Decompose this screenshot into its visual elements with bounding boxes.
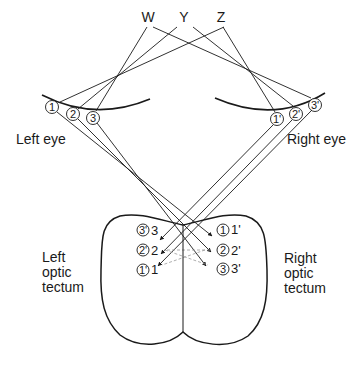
right-mark-3-num: 3' [231,261,241,276]
object-points: W Y Z [141,9,225,25]
right-mark-3-circle: 3 [220,263,226,275]
left-mark-2-num: 2 [151,243,158,258]
right-eye-receptors: 1' 2' 3' [271,99,322,126]
right-mark-2-num: 2' [231,243,241,258]
receptor-3p-label: 3' [311,99,319,111]
right-eye-label: Right eye [287,131,346,147]
rays-to-right-eye [153,27,311,112]
optic-tectum-outline [101,215,267,344]
receptor-2-label: 2 [70,108,76,120]
right-tectum-marks: 1 1' 2 2' 3 3' [217,222,241,276]
receptor-1-label: 1 [49,101,55,113]
binocular-projection-diagram: W Y Z 1 2 3 1' 2' 3' [0,0,361,366]
left-eye-fibers [57,112,212,266]
left-eye-label: Left eye [16,131,66,147]
left-tectum-label-line3: tectum [42,279,84,295]
right-tectum-label: Right optic tectum [284,250,326,296]
left-mark-2-circle: 2' [139,244,147,256]
right-mark-1-circle: 1 [220,224,226,236]
point-y-label: Y [179,9,189,25]
dashed-connections [162,250,210,265]
right-tectum-label-line2: optic [284,265,314,281]
left-tectum-label: Left optic tectum [42,249,84,295]
left-tectum-label-line1: Left [42,249,65,265]
left-mark-3-num: 1 [151,262,158,277]
receptor-3-label: 3 [90,112,96,124]
right-tectum-label-line1: Right [284,250,317,266]
left-mark-1-circle: 3' [139,224,147,236]
right-tectum-label-line3: tectum [284,280,326,296]
point-z-label: Z [217,9,226,25]
left-mark-3-circle: 1' [139,264,147,276]
rays-to-left-eye [60,27,224,111]
left-tectum-marks: 3' 3 2' 2 1' 1 [137,223,158,277]
receptor-2p-label: 2' [292,108,300,120]
point-w-label: W [141,9,155,25]
right-mark-1-num: 1' [231,222,241,237]
left-tectum-label-line2: optic [42,264,72,280]
right-mark-2-circle: 2 [220,244,226,256]
receptor-1p-label: 1' [273,113,281,125]
left-mark-1-num: 3 [151,223,158,238]
left-eye-receptors: 1 2 3 [46,101,100,125]
